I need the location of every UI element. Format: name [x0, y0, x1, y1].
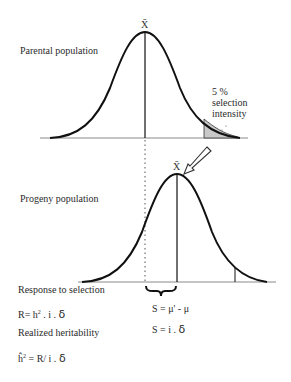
progeny-curve	[82, 174, 267, 282]
selection-response-diagram: X̄ X̄ Parental population Progeny popula…	[0, 0, 291, 382]
progeny-distribution	[78, 174, 276, 282]
realized-heritability-title: Realized heritability	[18, 327, 99, 339]
realized-heritability-formula: ĥ2 = R/ i . δ	[18, 350, 66, 365]
selection-percent-label: 5 %	[212, 86, 228, 97]
selection-differential-brace	[146, 286, 176, 296]
selection-arrow-icon	[184, 147, 211, 174]
s-formula-intensity: S = i . δ	[152, 324, 185, 336]
s-formula-difference: S = μ' - μ	[152, 303, 189, 315]
progeny-population-label: Progeny population	[20, 193, 99, 205]
intensity-word-label: intensity	[212, 108, 246, 119]
selection-word-label: selection	[212, 97, 248, 108]
parental-population-label: Parental population	[20, 45, 98, 57]
progeny-mean-symbol: X̄	[173, 162, 180, 172]
response-formula: R= h2 . i . δ	[18, 306, 65, 321]
response-title: Response to selection	[18, 284, 105, 296]
parental-mean-symbol: X̄	[141, 20, 148, 30]
diagram-graphics	[0, 0, 291, 382]
